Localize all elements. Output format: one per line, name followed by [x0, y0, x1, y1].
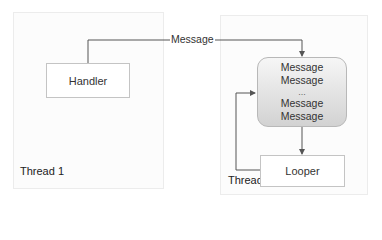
queue-ellipsis: ...	[298, 87, 306, 97]
queue-item: Message	[281, 110, 324, 123]
looper-label: Looper	[285, 165, 319, 177]
queue-item: Message	[281, 74, 324, 87]
queue-item: Message	[281, 61, 324, 74]
queue-item: Message	[281, 97, 324, 110]
handler-box: Handler	[46, 63, 130, 98]
message-arrow-label: Message	[170, 33, 215, 45]
looper-box: Looper	[260, 155, 345, 187]
handler-label: Handler	[69, 75, 108, 87]
message-queue: Message Message ... Message Message	[257, 57, 347, 127]
